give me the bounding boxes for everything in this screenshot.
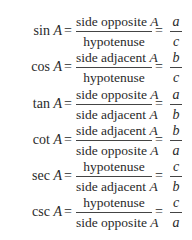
letter-ratio: a b [170, 86, 182, 123]
letter-ratio: b c [170, 49, 182, 86]
letter-ratio: b a [170, 122, 182, 159]
fraction-bar [170, 212, 182, 213]
fraction-bar [76, 104, 152, 105]
ratio-numerator: c [170, 158, 182, 175]
letter-ratio: a c [170, 13, 182, 50]
numerator: side adjacent A [76, 122, 152, 139]
equals-sign: = [64, 168, 72, 184]
fraction-bar [170, 176, 182, 177]
fraction-bar [170, 140, 182, 141]
numerator: side adjacent A [76, 49, 152, 66]
formula-row: cos A = side adjacent A hypotenuse = b c [0, 49, 192, 85]
numerator: side opposite A [76, 86, 152, 103]
function-label: sin A [34, 23, 62, 39]
formula-row: cot A = side adjacent A side opposite A … [0, 122, 192, 158]
fraction-bar [170, 104, 182, 105]
ratio-numerator: c [170, 194, 182, 211]
word-fraction: side opposite A side adjacent A [76, 86, 152, 123]
fraction-bar [76, 212, 152, 213]
ratio-numerator: b [170, 49, 182, 66]
equals-sign: = [155, 132, 163, 148]
fraction-bar [170, 31, 182, 32]
fraction-bar [76, 140, 152, 141]
fraction-bar [76, 31, 152, 32]
equals-sign: = [155, 168, 163, 184]
ratio-numerator: a [170, 13, 182, 30]
equals-sign: = [64, 204, 72, 220]
fraction-bar [76, 67, 152, 68]
equals-sign: = [155, 96, 163, 112]
ratio-denominator: a [170, 142, 182, 159]
numerator: hypotenuse [76, 194, 152, 211]
equals-sign: = [64, 132, 72, 148]
function-label: tan A [33, 96, 62, 112]
ratio-denominator: a [170, 214, 182, 231]
numerator: hypotenuse [76, 158, 152, 175]
word-fraction: hypotenuse side opposite A [76, 194, 152, 231]
formula-row: csc A = hypotenuse side opposite A = c a [0, 194, 192, 230]
fraction-bar [76, 176, 152, 177]
ratio-denominator: b [170, 178, 182, 195]
equals-sign: = [155, 204, 163, 220]
equals-sign: = [155, 23, 163, 39]
ratio-numerator: a [170, 86, 182, 103]
denominator: side adjacent A [76, 106, 152, 123]
function-label: cos A [31, 59, 62, 75]
denominator: hypotenuse [76, 33, 152, 50]
word-fraction: side adjacent A hypotenuse [76, 49, 152, 86]
equals-sign: = [64, 59, 72, 75]
ratio-denominator: c [170, 69, 182, 86]
equals-sign: = [64, 23, 72, 39]
letter-ratio: c b [170, 158, 182, 195]
fraction-bar [170, 67, 182, 68]
ratio-denominator: c [170, 33, 182, 50]
denominator: side adjacent A [76, 178, 152, 195]
function-label: sec A [32, 168, 62, 184]
equals-sign: = [155, 59, 163, 75]
formula-row: sec A = hypotenuse side adjacent A = c b [0, 158, 192, 194]
numerator: side opposite A [76, 13, 152, 30]
ratio-denominator: b [170, 106, 182, 123]
word-fraction: hypotenuse side adjacent A [76, 158, 152, 195]
formula-row: sin A = side opposite A hypotenuse = a c [0, 13, 192, 49]
denominator: side opposite A [76, 214, 152, 231]
ratio-numerator: b [170, 122, 182, 139]
function-label: cot A [33, 132, 62, 148]
formula-row: tan A = side opposite A side adjacent A … [0, 86, 192, 122]
equals-sign: = [64, 96, 72, 112]
denominator: side opposite A [76, 142, 152, 159]
letter-ratio: c a [170, 194, 182, 231]
denominator: hypotenuse [76, 69, 152, 86]
word-fraction: side adjacent A side opposite A [76, 122, 152, 159]
function-label: csc A [32, 204, 62, 220]
word-fraction: side opposite A hypotenuse [76, 13, 152, 50]
